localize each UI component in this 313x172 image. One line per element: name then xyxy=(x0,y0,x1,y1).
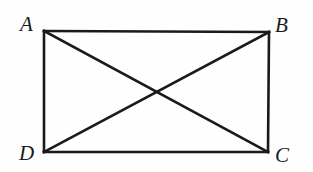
rectangle-edge-ab xyxy=(44,31,269,32)
vertex-label-a: A xyxy=(20,14,33,35)
vertex-label-d: D xyxy=(19,143,34,164)
rectangle-edge-bc xyxy=(268,32,269,152)
rectangle-diagonals xyxy=(44,31,269,152)
vertex-label-c: C xyxy=(275,145,289,166)
vertex-label-b: B xyxy=(275,15,288,36)
rectangle-diagonals-drawing xyxy=(0,0,313,172)
geometry-figure-canvas: A B C D xyxy=(0,0,313,172)
